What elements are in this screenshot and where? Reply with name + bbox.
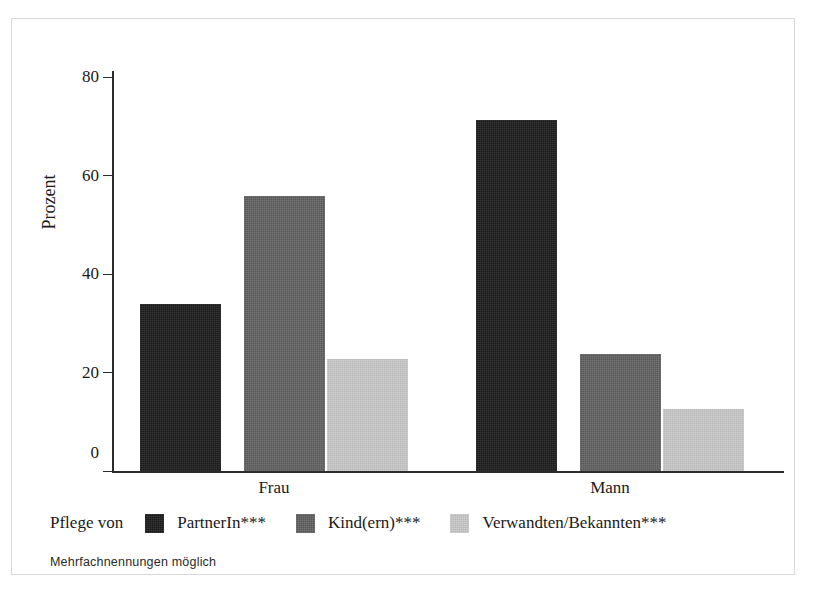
plot-area: Frau Mann [112, 71, 784, 471]
bar-frau-partnerin[interactable] [140, 304, 221, 471]
y-tick-label-0: 0 [39, 444, 99, 461]
y-tick-label-60: 60 [39, 167, 99, 184]
legend-entry-kindern[interactable]: Kind(ern)*** [296, 513, 421, 533]
y-tick-mark-0 [103, 471, 112, 472]
y-tick-mark-60 [103, 175, 112, 176]
x-category-label-mann: Mann [530, 479, 690, 496]
y-axis-title: Prozent [34, 204, 64, 225]
y-tick-label-40: 40 [39, 265, 99, 282]
legend-entry-partnerin[interactable]: PartnerIn*** [145, 513, 266, 533]
y-axis-line [112, 71, 114, 471]
bar-mann-kindern[interactable] [580, 354, 661, 471]
y-tick-label-20: 20 [39, 364, 99, 381]
bar-frau-kindern[interactable] [244, 196, 325, 471]
y-axis-title-text: Prozent [39, 200, 60, 230]
legend-swatch-kindern [296, 514, 315, 533]
footnote-text: Mehrfachnennungen möglich [50, 555, 216, 569]
bar-mann-verwandten[interactable] [663, 409, 744, 471]
bar-mann-partnerin[interactable] [476, 120, 557, 471]
legend-title: Pflege von [50, 513, 123, 533]
y-tick-label-80: 80 [39, 68, 99, 85]
legend-swatch-partnerin [145, 514, 164, 533]
legend-label-partnerin: PartnerIn*** [177, 513, 266, 533]
legend: Pflege von PartnerIn*** Kind(ern)*** Ver… [50, 513, 697, 533]
y-tick-mark-80 [103, 77, 112, 78]
x-category-label-frau: Frau [194, 479, 354, 496]
y-tick-mark-20 [103, 372, 112, 373]
bar-chart-figure: Prozent 80 60 40 20 0 Frau Mann [0, 0, 813, 597]
legend-swatch-verwandten [450, 514, 469, 533]
figure-frame: Prozent 80 60 40 20 0 Frau Mann [11, 18, 795, 575]
y-tick-mark-40 [103, 274, 112, 275]
legend-label-verwandten: Verwandten/Bekannten*** [482, 513, 666, 533]
legend-label-kindern: Kind(ern)*** [328, 513, 421, 533]
bar-frau-verwandten[interactable] [327, 359, 408, 471]
legend-entry-verwandten[interactable]: Verwandten/Bekannten*** [450, 513, 666, 533]
x-axis-line [112, 471, 784, 473]
